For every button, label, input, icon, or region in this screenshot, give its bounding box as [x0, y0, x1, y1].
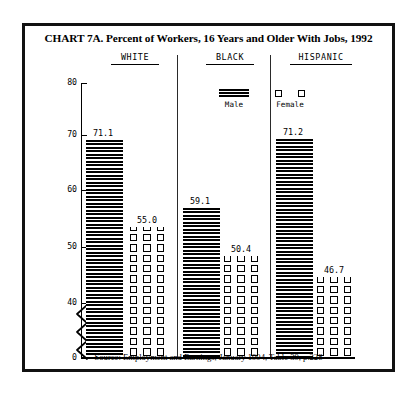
- square-row: [316, 305, 352, 315]
- square-row: [223, 263, 259, 273]
- y-tick-80: [81, 83, 87, 84]
- legend-label-female: Female: [265, 100, 315, 109]
- legend-entry-male: Male: [211, 89, 257, 109]
- square-row: [223, 336, 259, 346]
- y-tick-label-70: 70: [55, 129, 77, 139]
- bar-black-female: [223, 256, 259, 357]
- square-row: [223, 274, 259, 284]
- group-label-black: BLACK: [206, 52, 254, 65]
- bar-value-black-female: 50.4: [221, 244, 261, 254]
- bar-black-male: [183, 208, 220, 357]
- y-tick-label-40: 40: [55, 297, 77, 307]
- male-pattern-swatch-icon: [219, 89, 249, 98]
- square-row: [223, 326, 259, 336]
- square-row: [316, 295, 352, 305]
- square-row: [129, 274, 165, 284]
- bar-white-male: [86, 140, 123, 357]
- group-label-hispanic: HISPANIC: [290, 52, 352, 65]
- square-row: [129, 263, 165, 273]
- legend-label-male: Male: [211, 100, 257, 109]
- y-axis-line: [81, 83, 82, 358]
- square-row: [316, 326, 352, 336]
- bar-value-white-male: 71.1: [83, 128, 123, 138]
- chart-frame: CHART 7A. Percent of Workers, 16 Years a…: [22, 23, 395, 372]
- square-row: [129, 336, 165, 346]
- group-label-white: WHITE: [111, 52, 159, 65]
- square-row: [129, 326, 165, 336]
- bar-value-hispanic-female: 46.7: [314, 265, 354, 275]
- bar-value-black-male: 59.1: [180, 196, 220, 206]
- y-tick-label-80: 80: [55, 77, 77, 87]
- square-row: [223, 284, 259, 294]
- bar-hispanic-female: [316, 277, 352, 357]
- square-row: [316, 277, 352, 284]
- square-row: [129, 232, 165, 242]
- bar-value-hispanic-male: 71.2: [273, 127, 313, 137]
- square-row: [316, 315, 352, 325]
- square-row: [316, 336, 352, 346]
- chart-legend: Male Female: [211, 89, 315, 119]
- source-note: Source: Employment and Earnings, January…: [25, 352, 392, 362]
- y-tick-label-50: 50: [55, 241, 77, 251]
- square-row: [129, 243, 165, 253]
- square-row: [129, 253, 165, 263]
- bar-white-female: [129, 227, 165, 357]
- y-tick-label-60: 60: [55, 184, 77, 194]
- bar-value-white-female: 55.0: [127, 215, 167, 225]
- square-row: [223, 256, 259, 263]
- square-row: [129, 315, 165, 325]
- square-row: [223, 295, 259, 305]
- square-row: [129, 305, 165, 315]
- plot-area: WHITE BLACK HISPANIC Male Female 80 70: [25, 26, 392, 369]
- square-row: [223, 305, 259, 315]
- square-row: [129, 295, 165, 305]
- bar-hispanic-male: [276, 139, 313, 357]
- square-row: [223, 315, 259, 325]
- square-row: [316, 284, 352, 294]
- square-row: [129, 284, 165, 294]
- legend-entry-female: Female: [265, 89, 315, 109]
- group-separator-1: [177, 55, 178, 358]
- female-pattern-swatch-icon: [275, 89, 305, 98]
